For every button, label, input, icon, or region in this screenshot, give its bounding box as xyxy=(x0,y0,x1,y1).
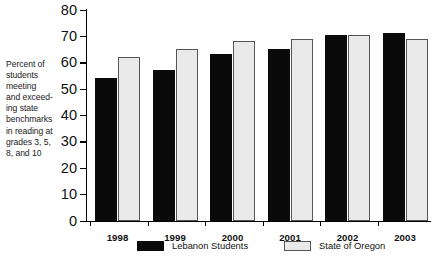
y-axis-tick-label: 20 xyxy=(61,161,77,176)
y-axis-tick-label: 0 xyxy=(69,213,77,228)
legend-label: State of Oregon xyxy=(319,240,385,251)
y-axis-tick-mark xyxy=(80,36,86,37)
bar-group: 1999 xyxy=(153,10,198,221)
x-axis-tick-mark xyxy=(378,221,379,226)
y-axis-tick-label: 50 xyxy=(61,81,77,96)
bar-state-of-oregon xyxy=(176,49,198,220)
x-axis-tick-label: 2003 xyxy=(383,232,428,243)
y-axis-tick-mark xyxy=(80,10,86,11)
bar-state-of-oregon xyxy=(348,35,370,221)
x-axis-tick-label: 1998 xyxy=(95,232,140,243)
y-axis-caption: Percent of students meeting and exceed- … xyxy=(6,59,62,159)
y-axis-tick-mark xyxy=(80,115,86,116)
y-axis-tick-mark xyxy=(80,141,86,142)
y-axis-tick-label: 10 xyxy=(61,187,77,202)
bar-state-of-oregon xyxy=(291,39,313,221)
bar-group: 2003 xyxy=(383,10,428,221)
legend-label: Lebanon Students xyxy=(172,240,248,251)
bar-group: 2000 xyxy=(210,10,255,221)
y-axis-line xyxy=(86,9,87,222)
y-axis-tick-mark xyxy=(80,89,86,90)
y-axis-tick-label: 30 xyxy=(61,134,77,149)
bar-lebanon-students xyxy=(325,35,347,221)
y-axis-tick-label: 60 xyxy=(61,55,77,70)
bar-lebanon-students xyxy=(210,54,232,220)
bar-lebanon-students xyxy=(153,70,175,220)
y-axis-tick-label: 40 xyxy=(61,108,77,123)
y-axis-tick-label: 80 xyxy=(61,2,77,17)
bar-lebanon-students xyxy=(268,49,290,220)
bar-chart: Percent of students meeting and exceed- … xyxy=(0,0,440,263)
y-axis-tick-mark xyxy=(80,221,86,222)
bar-group: 2001 xyxy=(268,10,313,221)
bar-state-of-oregon xyxy=(406,39,428,221)
y-axis-tick-label: 70 xyxy=(61,29,77,44)
x-axis-line xyxy=(86,221,431,222)
x-axis-tick-mark xyxy=(263,221,264,226)
legend-swatch xyxy=(137,241,164,251)
bar-group: 1998 xyxy=(95,10,140,221)
legend-item: Lebanon Students xyxy=(137,240,248,251)
legend-swatch xyxy=(284,241,311,251)
x-axis-tick-mark xyxy=(320,221,321,226)
bar-group: 2002 xyxy=(325,10,370,221)
y-axis-tick-mark xyxy=(80,194,86,195)
x-axis-tick-mark xyxy=(148,221,149,226)
plot-area: 80706050403020100 1998199920002001200220… xyxy=(86,9,431,222)
bar-lebanon-students xyxy=(383,33,405,220)
y-axis-tick-mark xyxy=(80,168,86,169)
y-axis-tick-mark xyxy=(80,62,86,63)
chart-legend: Lebanon StudentsState of Oregon xyxy=(137,240,385,251)
bar-state-of-oregon xyxy=(233,41,255,220)
x-axis-tick-mark xyxy=(205,221,206,226)
bar-lebanon-students xyxy=(95,78,117,220)
bar-state-of-oregon xyxy=(118,57,140,221)
x-axis-tick-mark xyxy=(90,221,91,226)
legend-item: State of Oregon xyxy=(284,240,385,251)
